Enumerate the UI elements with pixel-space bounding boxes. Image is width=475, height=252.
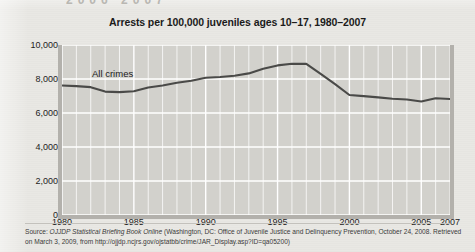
y-tick-label: 2,000 — [2, 176, 58, 186]
series-label-all-crimes: All crimes — [92, 68, 133, 79]
chart-figure: Arrests per 100,000 juveniles ages 10–17… — [0, 8, 475, 223]
y-axis: 02,0004,0006,0008,00010,000 — [0, 45, 58, 215]
chart-title: Arrests per 100,000 juveniles ages 10–17… — [0, 16, 475, 28]
source-prefix: Source: — [25, 228, 50, 235]
y-tick-label: 0 — [2, 210, 58, 220]
x-tick-label: 2000 — [339, 217, 359, 227]
source-divider — [25, 223, 450, 224]
source-note: Source: OJJDP Statistical Briefing Book … — [25, 227, 465, 247]
x-tick-label: 2005 — [411, 217, 431, 227]
y-tick-label: 4,000 — [2, 142, 58, 152]
x-tick-label: 1980 — [52, 217, 72, 227]
source-publication-title: OJJDP Statistical Briefing Book Online — [50, 228, 163, 235]
page-top-text-fragment: 2006 2007 — [66, 0, 236, 5]
x-tick-label: 1985 — [124, 217, 144, 227]
y-tick-label: 6,000 — [2, 108, 58, 118]
x-tick-label: 1995 — [268, 217, 288, 227]
y-tick-label: 10,000 — [2, 40, 58, 50]
x-tick-label: 2007 — [440, 217, 460, 227]
y-tick-label: 8,000 — [2, 74, 58, 84]
x-tick-label: 1990 — [196, 217, 216, 227]
